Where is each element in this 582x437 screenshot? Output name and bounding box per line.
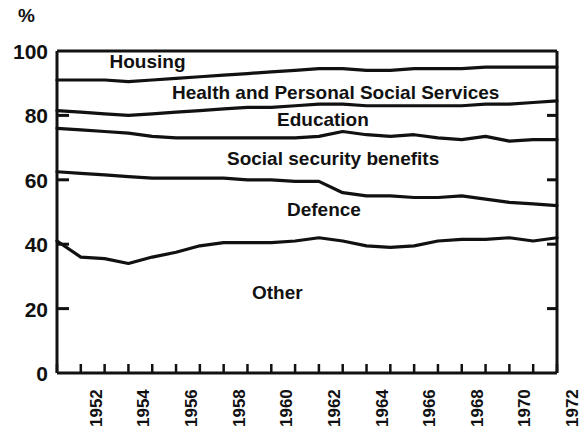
x-tick-label: 1964 [374, 389, 391, 427]
band-label: Education [277, 110, 369, 129]
x-tick-label: 1968 [469, 389, 486, 427]
y-tick-label: 60 [2, 170, 48, 191]
boundary-line-0 [57, 238, 557, 264]
y-tick-label: 20 [2, 299, 48, 320]
x-tick-label: 1970 [516, 389, 533, 427]
y-tick-label: 40 [2, 234, 48, 255]
x-tick-label: 1956 [183, 389, 200, 427]
x-tick-label: 1966 [421, 389, 438, 427]
band-label: Social security benefits [227, 149, 439, 168]
x-tick-label: 1972 [564, 389, 581, 427]
y-tick-label: 0 [2, 363, 48, 384]
band-label: Defence [287, 200, 361, 219]
boundary-line-2 [57, 128, 557, 141]
band-label: Health and Personal Social Services [172, 83, 499, 102]
band-label: Housing [110, 52, 186, 71]
x-tick-label: 1958 [231, 389, 248, 427]
y-tick-label: 80 [2, 105, 48, 126]
x-tick-label: 1960 [278, 389, 295, 427]
band-label: Other [252, 283, 303, 302]
x-tick-label: 1954 [135, 389, 152, 427]
y-tick-label: 100 [2, 41, 48, 62]
x-tick-label: 1952 [88, 389, 105, 427]
x-tick-label: 1962 [326, 389, 343, 427]
